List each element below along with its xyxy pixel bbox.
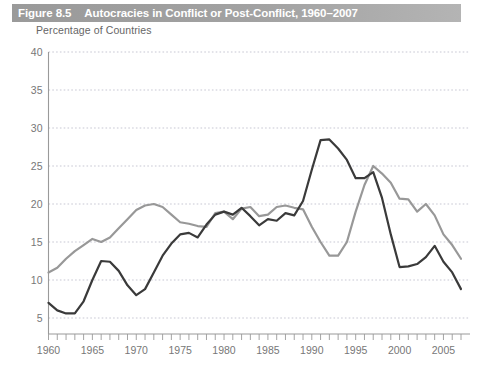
data-series — [49, 139, 462, 313]
y-tick-label-25: 25 — [31, 160, 43, 172]
y-tick-label-40: 40 — [31, 46, 43, 58]
x-tick-labels: 1960196519701975198019851990199520002005 — [37, 344, 455, 356]
x-tick-label-1995: 1995 — [344, 344, 368, 356]
x-tick-label-2000: 2000 — [388, 344, 412, 356]
y-tick-label-10: 10 — [31, 274, 43, 286]
x-tick-label-1960: 1960 — [37, 344, 61, 356]
x-tick-label-1990: 1990 — [300, 344, 324, 356]
y-tick-label-15: 15 — [31, 236, 43, 248]
x-axis — [49, 334, 471, 340]
y-tick-label-5: 5 — [37, 312, 43, 324]
gridlines — [49, 52, 471, 318]
x-tick-label-1965: 1965 — [81, 344, 105, 356]
series-line-conflict — [49, 139, 462, 313]
y-tick-labels: 510152025303540 — [31, 46, 43, 324]
line-chart-svg: 510152025303540 196019651970197519801985… — [0, 0, 483, 373]
figure-container: Figure 8.5 Autocracies in Conflict or Po… — [0, 0, 483, 373]
x-tick-label-1980: 1980 — [212, 344, 236, 356]
y-tick-label-20: 20 — [31, 198, 43, 210]
x-tick-label-2005: 2005 — [432, 344, 456, 356]
chart-plot-area: 510152025303540 196019651970197519801985… — [0, 0, 483, 373]
y-tick-label-30: 30 — [31, 122, 43, 134]
x-tick-label-1970: 1970 — [125, 344, 149, 356]
y-tick-label-35: 35 — [31, 84, 43, 96]
x-tick-label-1985: 1985 — [256, 344, 280, 356]
x-tick-label-1975: 1975 — [168, 344, 192, 356]
